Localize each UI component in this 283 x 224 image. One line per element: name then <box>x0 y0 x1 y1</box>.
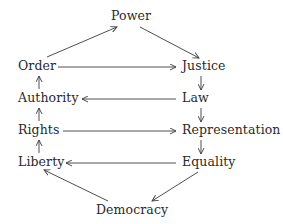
edge-equality-to-democracy <box>152 172 198 201</box>
node-justice: Justice <box>182 60 226 73</box>
concept-cycle-diagram: Power Order Justice Authority Law Rights… <box>0 0 283 224</box>
node-power: Power <box>111 10 151 23</box>
node-authority: Authority <box>18 92 79 105</box>
edge-order-to-power <box>47 27 117 57</box>
node-liberty: Liberty <box>18 156 64 169</box>
node-democracy: Democracy <box>96 204 168 217</box>
node-equality: Equality <box>182 156 236 169</box>
edges-layer <box>0 0 283 224</box>
edge-power-to-justice <box>140 27 199 58</box>
node-representation: Representation <box>182 124 281 137</box>
node-law: Law <box>182 92 209 105</box>
node-rights: Rights <box>18 124 60 137</box>
node-order: Order <box>18 60 56 73</box>
edge-democracy-to-liberty <box>44 170 108 201</box>
